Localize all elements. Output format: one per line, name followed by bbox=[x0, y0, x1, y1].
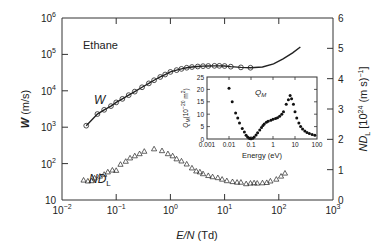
x-tick-label: 101 bbox=[217, 203, 232, 216]
inset-y-axis-title: QM(10−20 m2) bbox=[180, 88, 191, 127]
right-tick-label: 5 bbox=[338, 43, 344, 54]
qm-data-point bbox=[294, 110, 297, 113]
left-tick-label: 102 bbox=[41, 157, 56, 170]
qm-data-point bbox=[231, 100, 234, 103]
qm-data-point bbox=[292, 103, 295, 106]
left-tick-label: 105 bbox=[41, 47, 56, 60]
right-tick-label: 4 bbox=[338, 74, 344, 85]
ndl-data-point bbox=[142, 149, 147, 154]
qm-data-point bbox=[280, 113, 283, 116]
qm-data-point bbox=[241, 127, 244, 130]
inset-y-tick-label: 20 bbox=[197, 86, 205, 93]
ndl-data-point bbox=[165, 151, 170, 156]
left-y-axis-title: W (m/s) bbox=[19, 90, 31, 129]
x-tick-label: 102 bbox=[271, 203, 286, 216]
qm-data-point bbox=[228, 87, 231, 90]
qm-data-point bbox=[299, 125, 302, 128]
qm-data-point bbox=[313, 134, 316, 137]
inset-plot: 0.0010.010.1110100 0510152025 QM Energy … bbox=[180, 74, 323, 161]
inset-y-tick-label: 10 bbox=[197, 111, 205, 118]
qm-data-point bbox=[282, 110, 285, 113]
ndl-data-point bbox=[238, 180, 243, 185]
inset-frame bbox=[207, 77, 317, 139]
inset-x-tick-label: 1 bbox=[271, 141, 275, 148]
qm-data-point bbox=[236, 116, 239, 119]
qm-data-point bbox=[289, 94, 292, 97]
x-tick-label: 100 bbox=[163, 203, 178, 216]
right-y-axis-title: NDL [1024 (m s)−1] bbox=[357, 66, 371, 151]
right-tick-label: 3 bbox=[338, 104, 344, 115]
ndl-data-point bbox=[114, 168, 119, 173]
ndl-data-point bbox=[132, 153, 137, 158]
ndl-data-point bbox=[206, 173, 211, 178]
inset-x-tick-label: 10 bbox=[291, 141, 299, 148]
qm-data-point bbox=[290, 97, 293, 100]
w-series-label: W bbox=[94, 93, 107, 107]
right-y-axis-ticks: 0123456 bbox=[327, 13, 344, 206]
right-tick-label: 0 bbox=[338, 195, 344, 206]
x-tick-label: 10−1 bbox=[107, 203, 126, 216]
ndl-data-point bbox=[224, 178, 229, 183]
ndl-data-point bbox=[127, 155, 132, 160]
ndl-data-point bbox=[282, 171, 287, 176]
x-axis-title: E/N (Td) bbox=[176, 229, 218, 241]
qm-data-point bbox=[267, 120, 270, 123]
inset-y-tick-label: 5 bbox=[200, 123, 204, 130]
ndl-data-point bbox=[179, 158, 184, 163]
qm-data-point bbox=[285, 103, 288, 106]
inset-x-tick-label: 100 bbox=[312, 141, 323, 148]
right-tick-label: 1 bbox=[338, 165, 344, 176]
ndl-data-point bbox=[215, 175, 220, 180]
qm-data-point bbox=[256, 131, 259, 134]
transport-coefficients-chart: 10−210−1100101102103 10102103104105106 0… bbox=[0, 0, 377, 246]
qm-data-point bbox=[287, 98, 290, 101]
left-tick-label: 103 bbox=[41, 120, 56, 133]
qm-data-point bbox=[295, 116, 298, 119]
ndl-data-point bbox=[118, 162, 123, 167]
inset-x-axis-title: Energy (eV) bbox=[242, 151, 283, 160]
right-tick-label: 6 bbox=[338, 13, 344, 24]
qm-data-point bbox=[234, 111, 237, 114]
left-y-axis-ticks: 10102103104105106 bbox=[41, 11, 68, 206]
ndl-data-point bbox=[81, 177, 86, 182]
ndl-data-point bbox=[230, 179, 235, 184]
ndl-data-point bbox=[189, 165, 194, 170]
ndl-data-point bbox=[274, 177, 279, 182]
left-tick-label: 104 bbox=[41, 84, 56, 97]
qm-data-point bbox=[238, 121, 241, 124]
right-tick-label: 2 bbox=[338, 134, 344, 145]
qm-data-point bbox=[297, 121, 300, 124]
ndl-data-point bbox=[184, 161, 189, 166]
qm-data-point bbox=[301, 128, 304, 131]
left-tick-label: 10 bbox=[45, 195, 57, 206]
gas-label: Ethane bbox=[83, 39, 118, 51]
inset-y-tick-label: 15 bbox=[197, 98, 205, 105]
inset-x-tick-label: 0.01 bbox=[223, 141, 236, 148]
qm-data-point bbox=[308, 132, 311, 135]
qm-data-point bbox=[311, 133, 314, 136]
ndl-data-point bbox=[159, 148, 164, 153]
ndl-data-point bbox=[151, 146, 156, 151]
ndl-data-point bbox=[170, 153, 175, 158]
ndl-data-point bbox=[210, 174, 215, 179]
ndl-data-point bbox=[268, 178, 273, 183]
left-tick-label: 106 bbox=[41, 11, 56, 24]
qm-data-point bbox=[243, 131, 246, 134]
inset-y-tick-label: 25 bbox=[197, 74, 205, 81]
inset-x-tick-label: 0.1 bbox=[246, 141, 255, 148]
qm-data-point bbox=[258, 129, 261, 132]
inset-y-tick-label: 0 bbox=[200, 136, 204, 143]
